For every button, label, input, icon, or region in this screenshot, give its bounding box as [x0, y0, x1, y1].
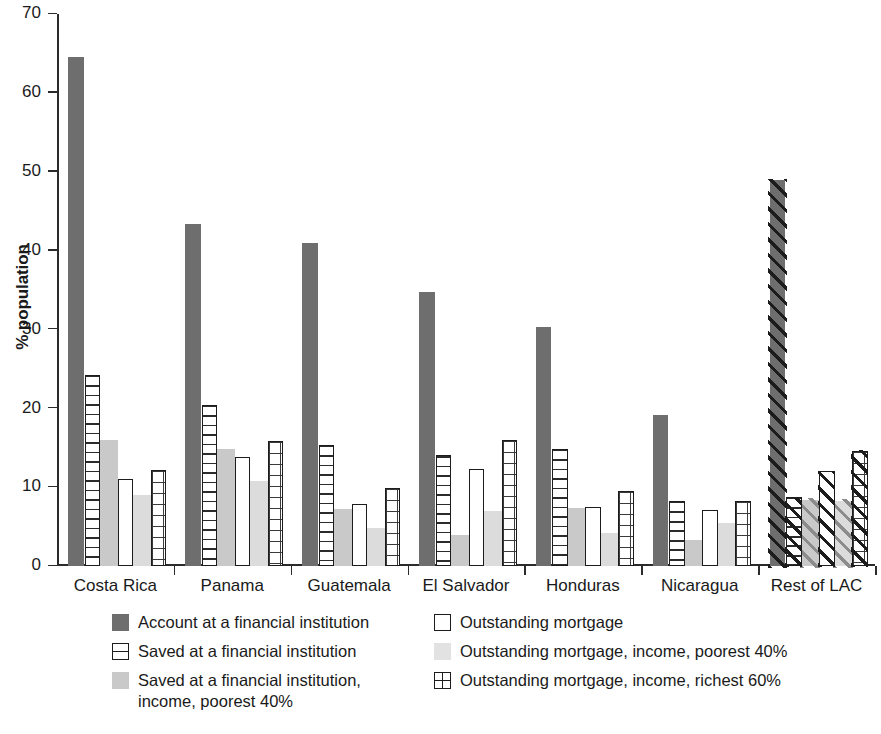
bar: [302, 243, 318, 566]
plot-area: 010203040506070: [57, 14, 875, 566]
bar: [802, 500, 820, 566]
bar: [618, 491, 634, 566]
y-axis-tick: 20: [48, 407, 57, 409]
bar: [735, 501, 751, 566]
y-axis-tick-label: 70: [22, 3, 41, 23]
bar: [235, 457, 251, 566]
bar: [334, 509, 352, 566]
bar: [852, 451, 868, 566]
legend-item-label: Outstanding mortgage, income, poorest 40…: [460, 641, 787, 662]
bar-group: [770, 14, 868, 566]
solid-pale-gray-swatch-icon: [434, 643, 451, 660]
bar-group: [185, 14, 283, 566]
y-axis-tick: 50: [48, 170, 57, 172]
bar: [536, 327, 552, 566]
x-axis-tick: [758, 566, 760, 575]
bar: [653, 415, 669, 566]
legend-item[interactable]: Outstanding mortgage, income, poorest 40…: [434, 641, 874, 662]
bar: [469, 469, 485, 566]
x-axis-category-label: El Salvador: [408, 576, 525, 596]
y-axis-tick: 40: [48, 249, 57, 251]
solid-light-gray-swatch-icon: [112, 672, 129, 689]
x-axis-category-label: Panama: [174, 576, 291, 596]
grid-lines-swatch-icon: [434, 672, 451, 689]
x-axis-tick: [875, 566, 877, 575]
open-white-swatch-icon: [434, 614, 451, 631]
y-axis-tick-label: 30: [22, 319, 41, 339]
legend-column-left: Account at a financial institutionSaved …: [112, 612, 442, 720]
y-axis-tick-label: 50: [22, 161, 41, 181]
bar: [786, 497, 802, 566]
x-axis-tick: [174, 566, 176, 575]
y-axis-tick: 60: [48, 91, 57, 93]
bar: [217, 449, 235, 566]
x-axis-category-label: Guatemala: [291, 576, 408, 596]
bar: [151, 470, 167, 566]
bar-group: [302, 14, 400, 566]
legend-item-label: Outstanding mortgage: [460, 612, 623, 633]
x-axis-tick: [641, 566, 643, 575]
bar: [202, 405, 218, 566]
bar: [250, 481, 268, 566]
bar-group: [536, 14, 634, 566]
bar: [669, 501, 685, 566]
x-axis-category-label: Honduras: [524, 576, 641, 596]
y-axis-tick-label: 60: [22, 82, 41, 102]
bar: [685, 540, 703, 566]
y-axis-tick: 30: [48, 328, 57, 330]
bar: [718, 523, 736, 566]
bar: [835, 501, 853, 566]
bar-group: [68, 14, 166, 566]
bar: [268, 441, 284, 566]
bar: [484, 511, 502, 566]
horizontal-lines-swatch-icon: [112, 643, 129, 660]
y-axis-tick: 0: [48, 565, 57, 567]
x-axis-tick: [291, 566, 293, 575]
bar: [133, 495, 151, 566]
y-axis-tick-label: 40: [22, 240, 41, 260]
bar: [100, 440, 118, 566]
bar: [819, 471, 835, 566]
legend-item[interactable]: Saved at a financial institution: [112, 641, 442, 662]
legend-item[interactable]: Outstanding mortgage: [434, 612, 874, 633]
bar: [352, 504, 368, 566]
y-axis-title: % population: [13, 212, 33, 382]
legend-item[interactable]: Account at a financial institution: [112, 612, 442, 633]
bar: [552, 449, 568, 566]
bar: [770, 180, 786, 566]
y-axis-tick-label: 0: [32, 555, 41, 575]
bar: [451, 535, 469, 566]
bar: [68, 57, 84, 566]
x-axis-tick: [524, 566, 526, 575]
bar: [419, 292, 435, 566]
bar: [185, 224, 201, 566]
bar: [436, 455, 452, 566]
y-axis-tick-label: 10: [22, 476, 41, 496]
bar: [585, 507, 601, 566]
x-axis-tick: [408, 566, 410, 575]
legend-item-label: Account at a financial institution: [138, 612, 369, 633]
legend-item[interactable]: Saved at a financial institution, income…: [112, 670, 442, 712]
bar: [385, 488, 401, 566]
y-axis-tick: 70: [48, 13, 57, 15]
chart-figure: % population 010203040506070 Costa RicaP…: [0, 0, 881, 734]
bar: [85, 375, 101, 566]
legend-item-label: Outstanding mortgage, income, richest 60…: [460, 670, 781, 691]
y-axis-line: [57, 14, 59, 566]
legend-column-right: Outstanding mortgageOutstanding mortgage…: [434, 612, 874, 699]
legend-item-label: Saved at a financial institution, income…: [138, 670, 361, 712]
x-axis-category-label: Nicaragua: [641, 576, 758, 596]
bar: [319, 445, 335, 566]
y-axis-tick: 10: [48, 486, 57, 488]
bar: [367, 528, 385, 566]
bar: [702, 510, 718, 566]
x-axis-category-label: Costa Rica: [57, 576, 174, 596]
bar: [502, 440, 518, 566]
bar: [601, 533, 619, 566]
bar: [568, 508, 586, 566]
bar-group: [419, 14, 517, 566]
legend-item[interactable]: Outstanding mortgage, income, richest 60…: [434, 670, 874, 691]
bar: [118, 479, 134, 566]
bar-group: [653, 14, 751, 566]
solid-dark-gray-swatch-icon: [112, 614, 129, 631]
